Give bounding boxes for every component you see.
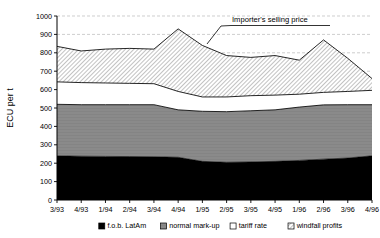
stacked-area-chart: 01002003004005006007008009001000 3/934/9… [0, 0, 380, 238]
x-tick-label: 3/94 [147, 205, 161, 214]
x-tick-label: 1/96 [292, 205, 306, 214]
legend-swatch-0 [99, 223, 105, 229]
y-tick-label: 600 [40, 85, 52, 94]
annotation-label: Importer's selling price [232, 15, 308, 24]
y-tick-label: 1000 [36, 12, 52, 21]
x-tick-label: 2/94 [123, 205, 137, 214]
area-series-0 [57, 156, 372, 200]
y-tick-label: 800 [40, 48, 52, 57]
legend-label-1: normal mark-up [169, 221, 219, 230]
y-tick-label: 0 [48, 196, 52, 205]
x-tick-label: 3/95 [244, 205, 258, 214]
legend-label-3: windfall profits [296, 221, 343, 230]
y-tick-label: 100 [40, 177, 52, 186]
x-tick-label: 4/96 [365, 205, 379, 214]
area-series-group [57, 29, 372, 200]
x-tick-label: 4/93 [74, 205, 88, 214]
y-tick-label: 900 [40, 30, 52, 39]
legend-item-3[interactable]: windfall profits [288, 221, 343, 230]
y-tick-label: 300 [40, 140, 52, 149]
x-tick-label: 1/95 [195, 205, 209, 214]
chart-container: 01002003004005006007008009001000 3/934/9… [0, 0, 380, 238]
legend-item-1[interactable]: normal mark-up [161, 221, 220, 230]
x-tick-label: 3/96 [341, 205, 355, 214]
y-axis-title: ECU per t [5, 88, 15, 128]
y-tick-label: 500 [40, 104, 52, 113]
y-tick-label: 200 [40, 159, 52, 168]
x-tick-label: 2/95 [220, 205, 234, 214]
legend-swatch-3 [288, 223, 294, 229]
y-tick-label: 400 [40, 122, 52, 131]
y-tick-label: 700 [40, 67, 52, 76]
x-tick-label: 3/93 [50, 205, 64, 214]
x-tick-label: 1/94 [98, 205, 112, 214]
x-tick-label: 2/96 [317, 205, 331, 214]
x-tick-label: 4/94 [171, 205, 185, 214]
legend-label-0: f.o.b. LatAm [107, 221, 146, 230]
legend-swatch-1 [161, 223, 167, 229]
area-series-1 [57, 104, 372, 162]
legend-label-2: tariff rate [239, 221, 267, 230]
x-tick-label: 4/95 [268, 205, 282, 214]
legend-swatch-2 [230, 223, 236, 229]
